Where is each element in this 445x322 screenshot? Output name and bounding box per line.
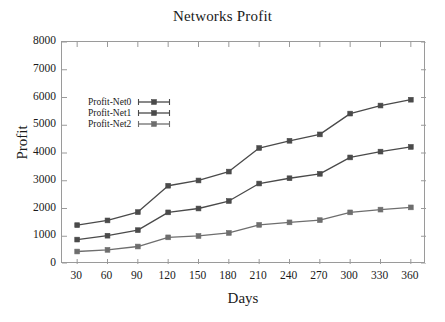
data-point-marker bbox=[75, 249, 80, 254]
plot-area bbox=[61, 41, 425, 263]
data-point-marker bbox=[196, 234, 201, 239]
legend-item[interactable]: Profit-Net2 bbox=[88, 119, 171, 129]
data-point-marker bbox=[196, 206, 201, 211]
data-point-marker bbox=[408, 205, 413, 210]
y-axis-tick-label: 6000 bbox=[10, 91, 56, 103]
x-axis-tick-label: 360 bbox=[390, 270, 430, 282]
data-point-marker bbox=[135, 228, 140, 233]
y-axis-tick-label: 1000 bbox=[10, 229, 56, 241]
data-point-marker bbox=[378, 103, 383, 108]
legend-sample-marker bbox=[152, 122, 157, 127]
data-point-marker bbox=[75, 237, 80, 242]
x-axis-tick-labels: 306090120150180210240270300330360 bbox=[0, 270, 445, 286]
data-point-marker bbox=[105, 218, 110, 223]
data-point-marker bbox=[317, 218, 322, 223]
y-axis-tick-label: 0 bbox=[10, 257, 56, 269]
series-line bbox=[77, 147, 411, 240]
data-point-marker bbox=[166, 183, 171, 188]
legend-sample-marker bbox=[152, 100, 157, 105]
data-point-marker bbox=[378, 149, 383, 154]
data-point-marker bbox=[166, 235, 171, 240]
y-axis-tick-label: 5000 bbox=[10, 118, 56, 130]
data-point-marker bbox=[348, 155, 353, 160]
legend-line-sample bbox=[137, 97, 171, 107]
data-point-marker bbox=[408, 145, 413, 150]
data-point-marker bbox=[317, 171, 322, 176]
data-point-marker bbox=[348, 210, 353, 215]
series-profit-net2 bbox=[75, 205, 413, 254]
chart-legend: Profit-Net0Profit-Net1Profit-Net2 bbox=[88, 97, 171, 130]
data-point-marker bbox=[75, 223, 80, 228]
chart-title: Networks Profit bbox=[0, 8, 445, 25]
data-point-marker bbox=[196, 178, 201, 183]
data-point-marker bbox=[287, 176, 292, 181]
legend-sample-marker bbox=[152, 111, 157, 116]
series-line bbox=[77, 207, 411, 251]
x-axis-title: Days bbox=[61, 290, 425, 307]
data-point-marker bbox=[105, 233, 110, 238]
data-point-marker bbox=[135, 210, 140, 215]
data-point-marker bbox=[348, 111, 353, 116]
legend-item-label: Profit-Net2 bbox=[88, 119, 131, 129]
data-point-marker bbox=[166, 210, 171, 215]
data-point-marker bbox=[317, 132, 322, 137]
legend-item[interactable]: Profit-Net0 bbox=[88, 97, 171, 107]
data-point-marker bbox=[257, 146, 262, 151]
y-axis-tick-label: 4000 bbox=[10, 146, 56, 158]
data-point-marker bbox=[105, 247, 110, 252]
data-point-marker bbox=[226, 199, 231, 204]
y-axis-tick-label: 2000 bbox=[10, 202, 56, 214]
legend-item-label: Profit-Net1 bbox=[88, 108, 131, 118]
data-point-marker bbox=[135, 244, 140, 249]
data-point-marker bbox=[257, 181, 262, 186]
legend-item-label: Profit-Net0 bbox=[88, 97, 131, 107]
data-point-marker bbox=[287, 220, 292, 225]
legend-line-sample bbox=[137, 119, 171, 129]
data-point-marker bbox=[287, 138, 292, 143]
data-point-marker bbox=[226, 169, 231, 174]
legend-item[interactable]: Profit-Net1 bbox=[88, 108, 171, 118]
plot-svg bbox=[62, 42, 426, 264]
data-point-marker bbox=[408, 97, 413, 102]
data-point-marker bbox=[226, 231, 231, 236]
y-axis-tick-label: 3000 bbox=[10, 174, 56, 186]
chart-container: Networks Profit Profit 01000200030004000… bbox=[0, 0, 445, 322]
y-axis-tick-label: 8000 bbox=[10, 35, 56, 47]
y-axis-tick-label: 7000 bbox=[10, 63, 56, 75]
legend-line-sample bbox=[137, 108, 171, 118]
data-point-marker bbox=[378, 207, 383, 212]
data-point-marker bbox=[257, 222, 262, 227]
